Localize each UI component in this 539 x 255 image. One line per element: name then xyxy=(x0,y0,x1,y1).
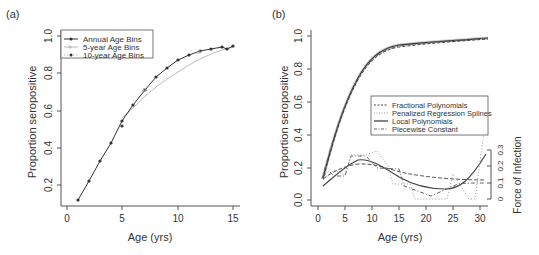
panel-a-x-tick-labels: 0 5 10 15 xyxy=(64,213,239,224)
svg-text:0.6: 0.6 xyxy=(43,104,54,118)
panel-a-series-annual xyxy=(78,46,233,200)
svg-text:5: 5 xyxy=(119,213,125,224)
svg-text:0.2: 0.2 xyxy=(293,161,304,175)
svg-text:0.2: 0.2 xyxy=(496,160,505,172)
panel-a-x-ticks xyxy=(67,206,233,210)
svg-text:20: 20 xyxy=(420,213,432,224)
panel-b-right-axis: 0 0.1 0.2 0.3 Force of Infection xyxy=(487,136,523,213)
panel-b: (b) 1.0 0.8 0.6 0.4 0.2 0.0 0510 1520253… xyxy=(272,8,523,243)
panel-b-legend: Fractional Polynomials Penalized Regress… xyxy=(371,96,492,135)
svg-text:0.4: 0.4 xyxy=(43,141,54,155)
panel-b-right-label: Force of Infection xyxy=(512,136,523,213)
panel-a-y-tick-labels: 1.0 0.8 0.6 0.4 0.2 xyxy=(43,29,54,192)
panel-a-y-label: Proportion seropositive xyxy=(26,66,38,179)
legend-10yr: 10-year Age Bins xyxy=(83,51,144,60)
panel-b-y-ticks xyxy=(307,36,311,200)
panel-b-x-ticks xyxy=(318,206,480,210)
svg-text:1.0: 1.0 xyxy=(43,29,54,43)
svg-text:0.3: 0.3 xyxy=(496,144,505,156)
svg-text:5: 5 xyxy=(342,213,348,224)
svg-text:1.0: 1.0 xyxy=(293,29,304,43)
svg-text:0.6: 0.6 xyxy=(293,95,304,109)
panel-a-x-label: Age (yrs) xyxy=(128,231,173,243)
svg-text:0.8: 0.8 xyxy=(43,66,54,80)
panel-b-y-label: Proportion seropositive xyxy=(278,66,290,179)
svg-text:30: 30 xyxy=(474,213,486,224)
panel-a-legend: Annual Age Bins 5-year Age Bins 10-year … xyxy=(61,30,153,60)
svg-text:0.2: 0.2 xyxy=(43,178,54,192)
panel-b-x-tick-labels: 0510 15202530 xyxy=(315,213,486,224)
svg-text:10: 10 xyxy=(366,213,378,224)
svg-text:10: 10 xyxy=(172,213,184,224)
panel-a: (a) 1.0 0.8 0.6 0.4 0.2 0 5 1 xyxy=(6,8,240,243)
panel-a-y-ticks xyxy=(57,36,61,185)
panel-a-label: (a) xyxy=(6,8,19,20)
svg-text:0: 0 xyxy=(496,196,505,201)
svg-text:0.8: 0.8 xyxy=(293,62,304,76)
panel-b-x-label: Age (yrs) xyxy=(378,231,423,243)
svg-text:0.0: 0.0 xyxy=(293,193,304,207)
panel-b-y-tick-labels: 1.0 0.8 0.6 0.4 0.2 0.0 xyxy=(293,29,304,207)
svg-text:0: 0 xyxy=(315,213,321,224)
svg-text:15: 15 xyxy=(227,213,239,224)
panel-a-markers-annual xyxy=(76,44,234,201)
svg-text:15: 15 xyxy=(393,213,405,224)
svg-text:0.1: 0.1 xyxy=(496,177,505,189)
figure: (a) 1.0 0.8 0.6 0.4 0.2 0 5 1 xyxy=(0,0,539,255)
svg-text:0: 0 xyxy=(64,213,70,224)
legend-piecewise: Piecewise Constant xyxy=(392,125,459,134)
svg-text:25: 25 xyxy=(447,213,459,224)
svg-text:0.4: 0.4 xyxy=(293,128,304,142)
panel-b-label: (b) xyxy=(272,8,285,20)
